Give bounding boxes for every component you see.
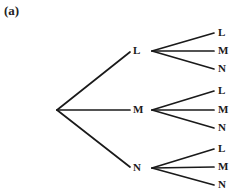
edge-root-to-l-0 xyxy=(57,52,130,110)
node-label-leaf-2-0-l: L xyxy=(218,143,225,154)
edge-n-to-n-2-2 xyxy=(152,168,214,185)
node-label-leaf-0-2-n: N xyxy=(218,63,226,74)
edge-m-to-l-1-0 xyxy=(152,91,214,110)
edge-root-to-n-2 xyxy=(57,110,130,167)
edge-l-to-n-0-2 xyxy=(152,51,214,69)
node-label-level1-1-m: M xyxy=(133,104,143,115)
tree-diagram-figure: (a) LLMNMLMNNLMN xyxy=(0,0,237,195)
node-label-level1-0-l: L xyxy=(133,45,140,56)
node-label-leaf-1-1-m: M xyxy=(218,104,228,115)
node-label-leaf-2-1-m: M xyxy=(218,161,228,172)
tree-diagram-canvas xyxy=(0,0,237,195)
node-label-leaf-1-2-n: N xyxy=(218,122,226,133)
node-label-leaf-0-1-m: M xyxy=(218,45,228,56)
node-label-leaf-1-0-l: L xyxy=(218,85,225,96)
edge-m-to-n-1-2 xyxy=(152,110,214,128)
edge-n-to-l-2-0 xyxy=(152,149,214,168)
node-label-leaf-2-2-n: N xyxy=(218,179,226,190)
node-label-level1-2-n: N xyxy=(133,162,141,173)
node-label-leaf-0-0-l: L xyxy=(218,27,225,38)
edge-n-to-m-2-1 xyxy=(152,167,214,168)
edge-l-to-l-0-0 xyxy=(152,33,214,51)
